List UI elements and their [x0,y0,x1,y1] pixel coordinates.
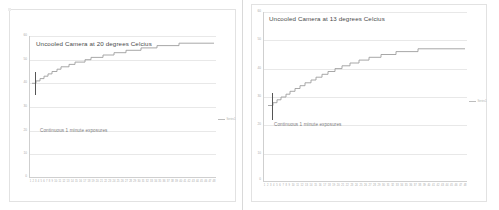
start-marker-right [272,93,273,120]
ytick-label: 30 [17,105,27,108]
ytick-label: 50 [17,58,27,61]
series-line-right [263,12,467,182]
chart-page: 60 50 40 30 20 10 0 Uncooled Camera at 2… [0,0,499,210]
plot-area-right [263,12,467,182]
x-axis-ticks-right: 1234567891011121314151617181920212223242… [263,184,467,187]
ytick-label: 30 [251,95,261,98]
chart-title-left: Uncooled Camera at 20 degrees Celcius [36,40,152,47]
chart-annotation-left: Continuous 1 minute exposures [40,128,108,133]
legend-swatch-icon [218,119,225,120]
ytick-label: 60 [251,10,261,13]
ytick-label: 20 [251,123,261,126]
ytick-label: 10 [251,152,261,155]
legend-label: Series1 [227,118,236,121]
ytick-label: 50 [251,38,261,41]
plot-area-left [29,36,216,178]
chart-title-right: Uncooled Camera at 13 degrees Celcius [269,15,385,22]
chart-panel-right: 60 50 40 30 20 10 0 Uncooled Camera at 1… [243,0,499,210]
ytick-label: 10 [17,152,27,155]
ytick-label: 60 [17,34,27,37]
legend-right: Series1 [469,100,487,103]
ytick-label: 40 [17,81,27,84]
legend-swatch-icon [469,101,476,102]
chart-panel-left: 60 50 40 30 20 10 0 Uncooled Camera at 2… [0,0,243,210]
start-marker-left [35,72,36,95]
xtick-label: 48 [212,180,216,183]
frame-corner-marker-left [8,8,11,11]
legend-label: Series1 [478,100,487,103]
x-axis-ticks-left: 1234567891011121314151617181920212223242… [29,180,216,183]
series-line-left [29,36,216,178]
ytick-label: 0 [17,175,27,178]
ytick-label: 20 [17,129,27,132]
ytick-label: 0 [251,178,261,181]
xtick-label: 48 [463,184,468,187]
chart-annotation-right: Continuous 1 minute exposures [274,122,342,127]
ytick-label: 40 [251,67,261,70]
legend-left: Series1 [218,118,236,121]
